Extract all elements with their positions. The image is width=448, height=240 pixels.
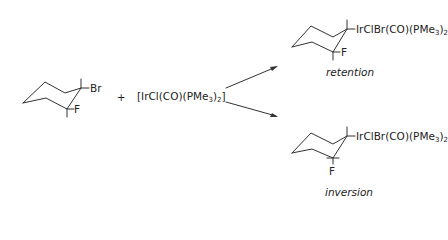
product-text: IrClBr(CO)(PMe	[356, 23, 435, 35]
arrowhead-retention	[270, 66, 278, 71]
plus-sign: +	[117, 92, 125, 103]
product-sub: 2	[444, 136, 448, 144]
inversion-caption: inversion	[325, 186, 373, 198]
reactant-f-label: F	[74, 104, 80, 115]
arrow-to-inversion	[226, 102, 276, 116]
product-sub: 2	[444, 29, 448, 37]
inversion-f-label: F	[329, 166, 335, 177]
retention-caption: retention	[326, 66, 374, 78]
reagent-text: ]	[222, 90, 226, 102]
iridium-reagent-label: [IrCl(CO)(PMe3)2]	[137, 91, 226, 104]
retention-f-label: F	[341, 47, 347, 58]
inversion-cyclohexane-ring	[292, 127, 355, 164]
inversion-iridium-label: IrClBr(CO)(PMe3)2	[356, 131, 448, 144]
reactant-br-label: Br	[90, 83, 102, 94]
reagent-text: [IrCl(CO)(PMe	[137, 90, 209, 102]
arrow-to-retention	[226, 67, 276, 88]
product-text: IrClBr(CO)(PMe	[356, 130, 435, 142]
arrowhead-inversion	[270, 113, 278, 117]
retention-iridium-label: IrClBr(CO)(PMe3)2	[356, 24, 448, 37]
